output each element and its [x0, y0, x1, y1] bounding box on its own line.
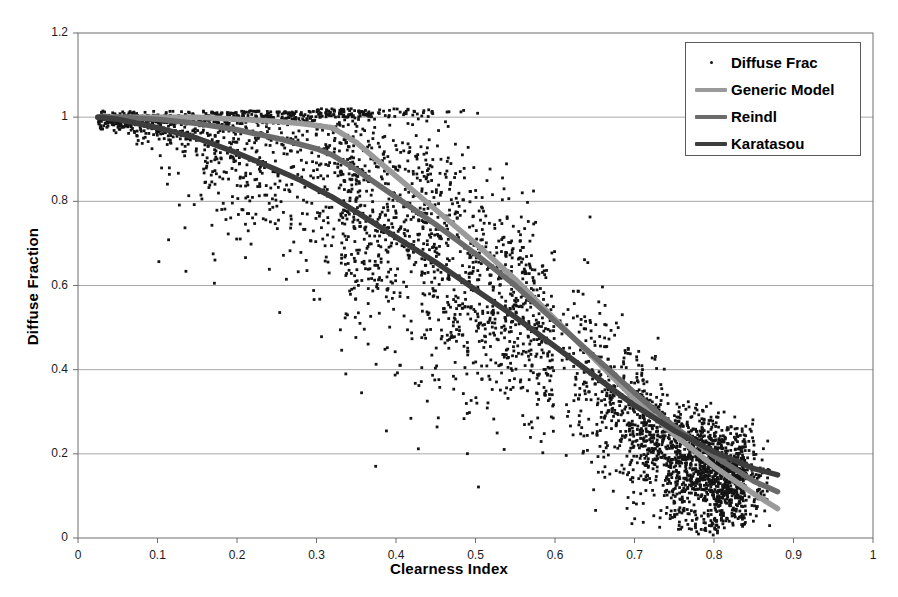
- scatter-points: [97, 107, 771, 536]
- legend-label: Karatasou: [728, 136, 804, 151]
- line-icon: [695, 88, 727, 92]
- legend-label: Reindl: [728, 109, 777, 124]
- curve-generic-model: [98, 117, 778, 508]
- line-icon: [695, 115, 727, 119]
- dot-icon: [710, 61, 713, 64]
- legend-dot-marker-icon: [694, 56, 728, 70]
- line-icon: [695, 142, 727, 146]
- y-axis-title: Diffuse Fraction: [24, 137, 41, 437]
- legend-item-generic-model: Generic Model: [686, 76, 860, 103]
- legend-label: Diffuse Frac: [728, 55, 818, 70]
- x-axis-title: Clearness Index: [0, 560, 898, 577]
- model-curves: [98, 117, 778, 508]
- y-tick-label: 0.2: [22, 446, 68, 460]
- diffuse-fraction-chart: 00.20.40.60.811.2 00.10.20.30.40.50.60.7…: [0, 0, 898, 597]
- legend-line-marker-icon: [694, 83, 728, 97]
- legend-item-reindl: Reindl: [686, 103, 860, 130]
- legend-label: Generic Model: [728, 82, 834, 97]
- legend-item-diffuse-frac: Diffuse Frac: [686, 49, 860, 76]
- legend-line-marker-icon: [694, 137, 728, 151]
- legend-item-karatasou: Karatasou: [686, 130, 860, 157]
- y-tick-label: 1.2: [22, 25, 68, 39]
- y-tick-label: 0: [22, 530, 68, 544]
- legend-line-marker-icon: [694, 110, 728, 124]
- chart-legend: Diffuse FracGeneric ModelReindlKaratasou: [685, 42, 861, 156]
- y-tick-label: 1: [22, 109, 68, 123]
